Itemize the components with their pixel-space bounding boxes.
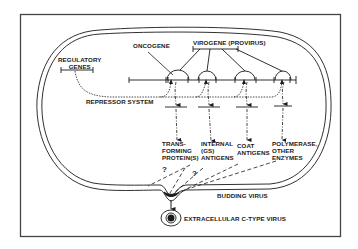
figure-frame (21, 15, 341, 237)
label-polymerase: POLYMERASE, OTHER ENZYMES (272, 140, 318, 161)
virogene-hump-2 (235, 71, 255, 80)
diagram-canvas (0, 0, 358, 249)
c-type-virus-diagram: REGULATORY GENES ONCOGENE VIROGENE (PROV… (0, 0, 358, 249)
label-oncogene: ONCOGENE (133, 42, 170, 49)
label-extracellular-virus: EXTRACELLULAR C-TYPE VIRUS (184, 215, 286, 222)
label-internal-antigens: INTERNAL (GS) ANTIGENS (201, 140, 234, 161)
chromosome-line (129, 76, 296, 84)
virogene-hump-1 (198, 71, 216, 80)
cell-membrane (37, 27, 331, 201)
budding-virus-blob (164, 192, 179, 197)
question-mark-2: ? (192, 170, 197, 177)
label-regulatory-genes: REGULATORY GENES (58, 56, 102, 70)
question-mark-1: ? (162, 166, 167, 173)
transforming-to-membrane (148, 165, 190, 186)
label-transforming-proteins: TRANS- FORMING PROTEIN(S) (162, 140, 199, 161)
gene-humps (167, 70, 291, 80)
label-repressor-system: REPRESSOR SYSTEM (86, 98, 154, 105)
virogene-hump-3 (275, 71, 291, 80)
repressor-system-path (75, 71, 282, 97)
expression-arrows (175, 82, 284, 141)
label-coat-antigens: COAT ANTIGENS (237, 142, 270, 156)
oncogene-pointer (148, 52, 173, 75)
label-virogene: VIROGENE (PROVIRUS) (193, 39, 266, 46)
virogene-bracket (180, 46, 282, 71)
oncogene-hump (167, 70, 189, 80)
product-bars (165, 106, 292, 107)
extracellular-virus-particle (161, 210, 181, 226)
label-budding-virus: BUDDING VIRUS (217, 192, 268, 199)
